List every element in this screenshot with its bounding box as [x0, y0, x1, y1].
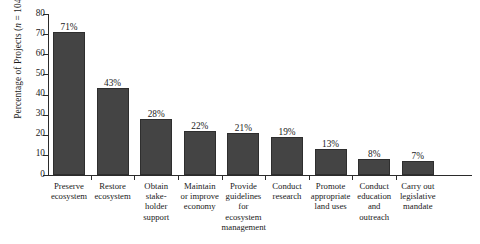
- x-axis-category-label-line: Restore: [91, 181, 135, 191]
- x-axis-category-label-line: land uses: [309, 201, 353, 211]
- bar-value-label: 19%: [278, 127, 295, 137]
- x-axis-category-label-line: outreach: [352, 212, 396, 222]
- y-axis-tick-label: 30: [36, 108, 45, 118]
- x-axis-category-label: Conductresearch: [265, 181, 309, 201]
- plot-area: 01020304050607080 71%43%28%22%21%19%13%8…: [48, 14, 472, 175]
- y-axis-tick-label: 20: [36, 128, 45, 138]
- x-axis-line: [48, 175, 472, 176]
- bar-value-label: 71%: [60, 22, 77, 32]
- bar: 71%: [53, 32, 85, 175]
- x-axis-category-label-line: Carry out: [396, 181, 440, 191]
- y-axis-tick-label: 0: [40, 169, 45, 179]
- x-axis-category-label-line: management: [222, 222, 266, 232]
- x-axis-category-label: Provideguidelinesforecosystemmanagement: [222, 181, 266, 232]
- y-axis-title-suffix: = 104): [13, 0, 23, 23]
- x-axis-category-label-line: Conduct: [265, 181, 309, 191]
- bar: 13%: [315, 149, 347, 175]
- x-axis-category-label-line: guidelines: [222, 191, 266, 201]
- bar-value-label: 22%: [191, 121, 208, 131]
- x-axis-category-label-line: research: [265, 191, 309, 201]
- x-axis-tick-mark: [134, 175, 135, 180]
- x-axis-category-label: Obtainstake-holdersupport: [134, 181, 178, 222]
- x-axis-category-label-line: Conduct: [352, 181, 396, 191]
- y-axis-tick-label: 50: [36, 68, 45, 78]
- x-axis-tick-mark: [265, 175, 266, 180]
- y-axis-title-prefix: Percentage of Projects (: [13, 28, 23, 119]
- x-axis-category-label-line: Provide: [222, 181, 266, 191]
- bar-chart-figure: Percentage of Projects (n = 104) 0102030…: [0, 0, 480, 244]
- y-axis-line: [48, 14, 49, 175]
- y-axis-tick-label: 60: [36, 48, 45, 58]
- x-axis-tick-mark: [396, 175, 397, 180]
- x-axis-category-label-line: ecosystem: [47, 191, 91, 201]
- x-axis-category-label: Preserveecosystem: [47, 181, 91, 201]
- bar: 7%: [402, 161, 434, 175]
- x-axis-category-label-line: Preserve: [47, 181, 91, 191]
- bar-value-label: 43%: [104, 78, 121, 88]
- y-axis-tick-label: 70: [36, 28, 45, 38]
- x-axis-category-label-line: Obtain: [134, 181, 178, 191]
- x-axis-category-label-line: and: [352, 201, 396, 211]
- x-axis-category-label: Restoreecosystem: [91, 181, 135, 201]
- x-axis-category-label-line: or improve: [178, 191, 222, 201]
- bar: 8%: [358, 159, 390, 175]
- bar-value-label: 28%: [148, 109, 165, 119]
- bar-value-label: 21%: [235, 123, 252, 133]
- x-axis-category-label-line: holder: [134, 201, 178, 211]
- x-axis-tick-mark: [91, 175, 92, 180]
- y-axis-tick-label: 80: [36, 8, 45, 18]
- x-axis-category-label-line: legislative: [396, 191, 440, 201]
- y-axis-tick-label: 10: [36, 148, 45, 158]
- x-axis-tick-mark: [222, 175, 223, 180]
- x-axis-category-label-line: education: [352, 191, 396, 201]
- bar: 28%: [140, 119, 172, 175]
- x-axis-category-label-line: ecosystem: [222, 212, 266, 222]
- x-axis-tick-mark: [309, 175, 310, 180]
- x-axis-category-label-line: Maintain: [178, 181, 222, 191]
- bar-value-label: 8%: [368, 149, 380, 159]
- x-axis-category-label: Promoteappropriateland uses: [309, 181, 353, 212]
- x-axis-category-label-line: mandate: [396, 201, 440, 211]
- x-axis-tick-mark: [352, 175, 353, 180]
- x-axis-category-label: Conducteducationandoutreach: [352, 181, 396, 222]
- bar: 22%: [184, 131, 216, 175]
- x-axis-category-label-line: for: [222, 201, 266, 211]
- x-axis-tick-mark: [178, 175, 179, 180]
- x-axis-category-label: Carry outlegislativemandate: [396, 181, 440, 212]
- bar-value-label: 7%: [412, 151, 424, 161]
- x-axis-category-label-line: appropriate: [309, 191, 353, 201]
- y-axis-title: Percentage of Projects (n = 104): [13, 0, 23, 137]
- x-axis-category-label-line: economy: [178, 201, 222, 211]
- x-axis-category-label-line: Promote: [309, 181, 353, 191]
- bar: 21%: [227, 133, 259, 175]
- x-axis-category-label-line: stake-: [134, 191, 178, 201]
- y-axis-title-italic-n: n: [13, 23, 23, 28]
- x-axis-category-label: Maintainor improveeconomy: [178, 181, 222, 212]
- x-axis-category-label-line: support: [134, 212, 178, 222]
- y-axis-tick-label: 40: [36, 88, 45, 98]
- bar: 43%: [97, 88, 129, 175]
- x-axis-category-label-line: ecosystem: [91, 191, 135, 201]
- bar-value-label: 13%: [322, 139, 339, 149]
- bar: 19%: [271, 137, 303, 175]
